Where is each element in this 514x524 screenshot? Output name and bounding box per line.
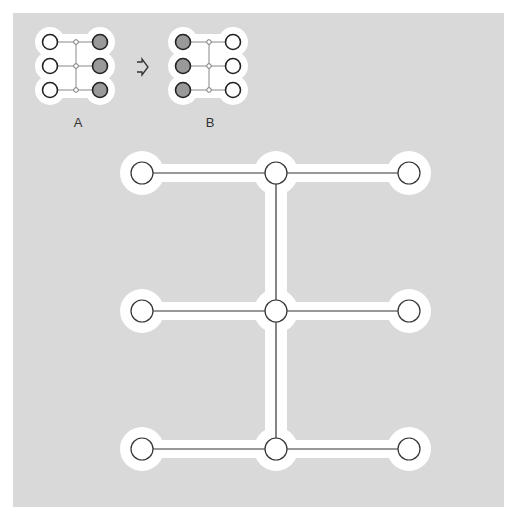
junction-node bbox=[74, 40, 79, 45]
empty-node bbox=[226, 35, 241, 50]
filled-node bbox=[176, 35, 191, 50]
empty-node bbox=[43, 59, 58, 74]
junction-node bbox=[207, 40, 212, 45]
small-diagram-b bbox=[168, 27, 248, 105]
node bbox=[265, 300, 287, 322]
empty-node bbox=[226, 83, 241, 98]
empty-node bbox=[43, 83, 58, 98]
small-diagram-a bbox=[35, 27, 115, 105]
junction-node bbox=[74, 88, 79, 93]
empty-node bbox=[226, 59, 241, 74]
main-diagram bbox=[120, 151, 431, 471]
junction-node bbox=[207, 64, 212, 69]
filled-node bbox=[176, 59, 191, 74]
filled-node bbox=[93, 35, 108, 50]
label-a: A bbox=[74, 115, 83, 130]
label-b: B bbox=[206, 115, 215, 130]
empty-node bbox=[43, 35, 58, 50]
node bbox=[265, 438, 287, 460]
filled-node bbox=[176, 83, 191, 98]
filled-node bbox=[93, 83, 108, 98]
junction-node bbox=[74, 64, 79, 69]
junction-node bbox=[207, 88, 212, 93]
node bbox=[131, 438, 153, 460]
node bbox=[131, 162, 153, 184]
node bbox=[398, 300, 420, 322]
node bbox=[398, 438, 420, 460]
right-arrow-icon bbox=[137, 59, 148, 75]
filled-node bbox=[93, 59, 108, 74]
node bbox=[131, 300, 153, 322]
node bbox=[398, 162, 420, 184]
node bbox=[265, 162, 287, 184]
diagram-canvas: A B bbox=[0, 0, 514, 524]
